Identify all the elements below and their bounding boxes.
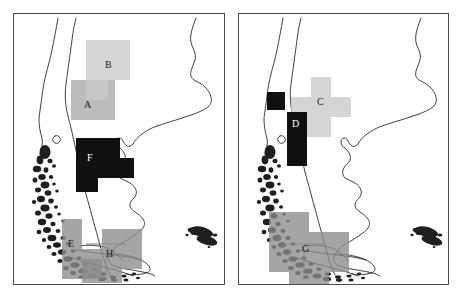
grid-cell-d [287,132,307,152]
grid-cell-g [289,232,309,252]
grid-cell-b [86,60,108,80]
grid-cell-e [62,259,82,279]
grid-cell-b [86,80,108,100]
grid-cell-f [76,158,98,178]
grid-cell-b [108,40,130,60]
grid-cell-c [331,97,351,117]
grid-cell-g [289,272,309,284]
grid-cell-b [86,40,108,60]
grid-cell-g [289,212,309,232]
grid-cell-g [329,252,349,272]
grid-cell-g [289,252,309,272]
grid-cell-g [329,232,349,252]
grid-cell-f [76,178,98,192]
grid-cell-a [93,100,115,120]
grid-cell-g [269,232,289,252]
left-map-panel: ABFEH [13,13,225,285]
grid-cell-h [82,249,102,269]
grid-cell-d [287,112,307,132]
grid-cell-c [311,97,331,117]
grid-cell-h [102,269,122,283]
grid-cell-c [311,117,331,137]
grid-cell-g [269,212,289,232]
right-map-canvas: CDG [239,14,448,284]
grid-cell-h [102,229,122,249]
grid-cell-g [309,232,329,252]
grid-cell-h [122,249,142,269]
grid-cell-f [98,158,120,178]
grid-cell-f [120,158,134,178]
left-map-canvas: ABFEH [14,14,224,284]
falkland-islands [410,226,442,248]
grid-cell-c [311,77,331,97]
grid-cell-b [108,60,130,80]
right-map-panel: CDG [238,13,449,285]
figure-root: ABFEH [0,0,461,299]
grid-cell-h [82,269,102,283]
grid-cell-h [122,229,142,249]
grid-cell-g [269,252,289,272]
grid-cell-g [309,252,329,272]
grid-cell-d [267,92,285,110]
grid-cell-a [71,100,93,120]
grid-cell-e [62,239,82,259]
grid-cell-f [98,138,120,158]
grid-cell-e [62,219,82,239]
grid-cell-h [102,249,122,269]
grid-cell-d [287,152,307,166]
grid-cell-f [76,138,98,158]
grid-cell-g [309,272,329,284]
falkland-islands [185,226,217,248]
